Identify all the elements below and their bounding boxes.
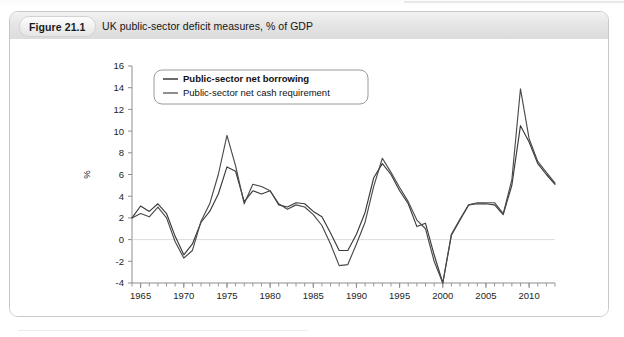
y-tick-label: 14 bbox=[113, 82, 124, 93]
data-series-group bbox=[132, 89, 555, 283]
x-tick-label: 1965 bbox=[130, 290, 151, 301]
y-tick-label: 10 bbox=[113, 126, 124, 137]
line-chart: -4-20246810121416 % 19651970197519801985… bbox=[10, 39, 608, 316]
x-tick-label: 2005 bbox=[475, 290, 496, 301]
x-tick-label: 1975 bbox=[216, 290, 237, 301]
series-line bbox=[132, 126, 555, 283]
legend-label: Public-sector net borrowing bbox=[183, 73, 309, 84]
y-tick-label: 4 bbox=[119, 191, 124, 202]
figure-title: UK public-sector deficit measures, % of … bbox=[102, 12, 313, 39]
x-tick-label: 1990 bbox=[346, 290, 367, 301]
y-tick-label: -2 bbox=[116, 256, 124, 267]
chart-plot-area: -4-20246810121416 % 19651970197519801985… bbox=[10, 39, 608, 316]
y-tick-label: 8 bbox=[119, 147, 124, 158]
y-axis: -4-20246810121416 % bbox=[81, 60, 132, 288]
figure-container: Figure 21.1 UK public-sector deficit mea… bbox=[9, 11, 609, 317]
figure-page: Figure 21.1 UK public-sector deficit mea… bbox=[0, 0, 624, 337]
page-bottom-rule bbox=[18, 330, 308, 331]
y-tick-label: 2 bbox=[119, 212, 124, 223]
x-tick-label: 2000 bbox=[432, 290, 453, 301]
x-tick-label: 1970 bbox=[173, 290, 194, 301]
y-tick-label: 0 bbox=[119, 234, 124, 245]
x-axis: 1965197019751980198519901995200020052010 bbox=[130, 283, 555, 301]
legend-label: Public-sector net cash requirement bbox=[183, 87, 330, 98]
x-tick-label: 1980 bbox=[260, 290, 281, 301]
chart-legend: Public-sector net borrowingPublic-sector… bbox=[154, 70, 368, 104]
figure-header: Figure 21.1 UK public-sector deficit mea… bbox=[10, 12, 608, 40]
x-tick-label: 1995 bbox=[389, 290, 410, 301]
y-tick-label: 16 bbox=[113, 60, 124, 71]
y-tick-label: -4 bbox=[116, 277, 124, 288]
series-line bbox=[132, 89, 555, 283]
x-tick-label: 1985 bbox=[303, 290, 324, 301]
y-axis-title: % bbox=[81, 170, 92, 179]
y-tick-label: 12 bbox=[113, 104, 124, 115]
figure-number-badge: Figure 21.1 bbox=[19, 16, 96, 37]
page-top-edge bbox=[0, 0, 624, 9]
x-tick-label: 2010 bbox=[519, 290, 540, 301]
y-tick-label: 6 bbox=[119, 169, 124, 180]
